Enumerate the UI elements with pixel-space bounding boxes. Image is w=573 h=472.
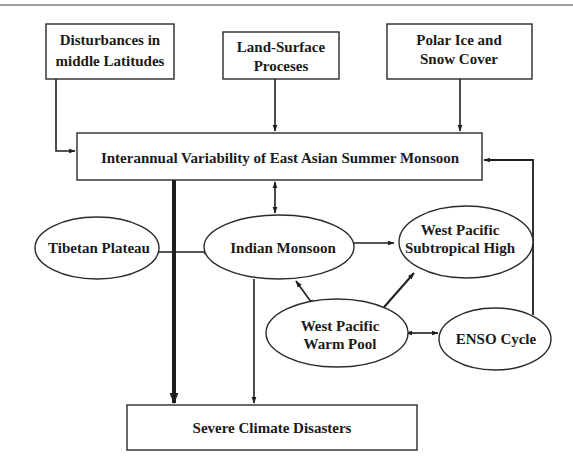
arrow-disturbances-to-interannual	[56, 79, 75, 151]
label-indian: Indian Monsoon	[230, 240, 336, 256]
label-interannual: Interannual Variability of East Asian Su…	[101, 150, 460, 166]
label-polar-line1: Polar Ice and	[416, 32, 502, 48]
node-wp-subtropical-high: West Pacific Subtropical High	[399, 206, 533, 278]
node-disturbances: Disturbances in middle Latitudes	[46, 24, 174, 79]
node-tibetan-plateau: Tibetan Plateau	[35, 217, 159, 279]
label-enso: ENSO Cycle	[456, 331, 537, 347]
label-warmpool-line2: Warm Pool	[304, 336, 377, 352]
label-landsurface-line1: Land-Surface	[237, 39, 326, 55]
climate-diagram: Disturbances in middle Latitudes Land-Su…	[0, 0, 573, 472]
node-polar-ice: Polar Ice and Snow Cover	[387, 24, 532, 79]
label-wphigh-line2: Subtropical High	[405, 240, 516, 256]
node-enso-cycle: ENSO Cycle	[439, 308, 551, 370]
label-disturbances-line1: Disturbances in	[60, 32, 161, 48]
label-landsurface-line2: Proceses	[254, 58, 309, 74]
node-wp-warm-pool: West Pacific Warm Pool	[266, 299, 408, 367]
label-warmpool-line1: West Pacific	[301, 318, 380, 334]
node-indian-monsoon: Indian Monsoon	[204, 215, 354, 279]
label-severe: Severe Climate Disasters	[193, 420, 352, 436]
label-polar-line2: Snow Cover	[420, 51, 498, 67]
label-tibetan: Tibetan Plateau	[48, 240, 150, 256]
node-land-surface: Land-Surface Proceses	[223, 32, 339, 79]
node-interannual: Interannual Variability of East Asian Su…	[77, 133, 482, 180]
label-wphigh-line1: West Pacific	[421, 222, 500, 238]
node-severe-climate-disasters: Severe Climate Disasters	[127, 405, 417, 450]
label-disturbances-line2: middle Latitudes	[56, 53, 165, 69]
